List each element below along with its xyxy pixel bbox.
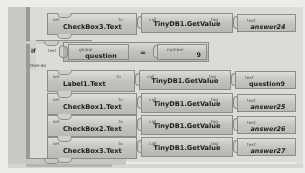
text-literal-value[interactable]: answer25 xyxy=(245,103,291,111)
tag-socket-label: tag xyxy=(211,97,218,102)
number-literal-block[interactable]: number 9 xyxy=(157,44,207,60)
text-literal-block-3[interactable]: text answer25 xyxy=(237,94,296,112)
to-keyword-label: to xyxy=(119,119,123,124)
enclosing-block-foot xyxy=(26,164,112,167)
call-method-block-5[interactable]: call TinyDB1.GetValue tag xyxy=(141,137,233,157)
call-method-block-1[interactable]: call TinyDB1.GetValue tag xyxy=(141,13,233,33)
enclosing-block-spine[interactable] xyxy=(26,7,30,162)
call-method-block-2[interactable]: call TinyDB1.GetValue tag xyxy=(139,70,231,90)
text-literal-value[interactable]: answer27 xyxy=(245,147,291,155)
set-keyword-label: set xyxy=(53,17,60,22)
property-name-label: CheckBox3.Text xyxy=(63,23,122,31)
set-property-block-5[interactable]: set CheckBox3.Text to xyxy=(47,137,137,159)
set-property-block-3[interactable]: set CheckBox1.Text to xyxy=(47,93,137,115)
then-do-socket-label: then-do xyxy=(30,63,46,68)
call-method-block-4[interactable]: call TinyDB1.GetValue tag xyxy=(141,115,233,135)
property-name-label: CheckBox3.Text xyxy=(63,147,122,155)
text-literal-block-2[interactable]: text question9 xyxy=(235,71,296,89)
set-keyword-label: set xyxy=(53,119,60,124)
to-keyword-label: to xyxy=(119,97,123,102)
text-literal-value[interactable]: question9 xyxy=(243,80,291,88)
set-property-block-2[interactable]: set Label1.Text to xyxy=(47,70,135,92)
set-keyword-label: set xyxy=(53,74,60,79)
test-socket-label: test xyxy=(48,48,56,53)
if-keyword-label: if xyxy=(31,47,36,54)
method-name-label: TinyDB1.GetValue xyxy=(142,144,232,152)
equals-operator-label: = xyxy=(140,49,146,57)
property-name-label: CheckBox2.Text xyxy=(63,125,122,133)
method-name-label: TinyDB1.GetValue xyxy=(140,77,230,85)
property-name-label: Label1.Text xyxy=(63,80,106,88)
number-keyword-label: number xyxy=(167,47,184,52)
tag-socket-label: tag xyxy=(211,17,218,22)
to-keyword-label: to xyxy=(117,74,121,79)
blocks-canvas[interactable]: set CheckBox3.Text to call TinyDB1.GetVa… xyxy=(0,0,305,173)
workspace-right-edge xyxy=(296,7,303,166)
text-literal-value[interactable]: answer24 xyxy=(245,23,291,31)
to-keyword-label: to xyxy=(119,17,123,22)
text-literal-block-4[interactable]: text answer26 xyxy=(237,116,296,134)
method-name-label: TinyDB1.GetValue xyxy=(142,20,232,28)
property-name-label: CheckBox1.Text xyxy=(63,103,122,111)
method-name-label: TinyDB1.GetValue xyxy=(142,122,232,130)
global-variable-getter-block[interactable]: global question xyxy=(68,44,129,60)
method-name-label: TinyDB1.GetValue xyxy=(142,100,232,108)
text-literal-block-5[interactable]: text answer27 xyxy=(237,138,296,156)
call-method-block-3[interactable]: call TinyDB1.GetValue tag xyxy=(141,93,233,113)
set-keyword-label: set xyxy=(53,141,60,146)
text-literal-value[interactable]: answer26 xyxy=(245,125,291,133)
tag-socket-label: tag xyxy=(211,141,218,146)
set-keyword-label: set xyxy=(53,97,60,102)
workspace-left-gutter xyxy=(8,7,26,166)
set-property-block-1[interactable]: set CheckBox3.Text to xyxy=(47,13,137,35)
set-property-block-4[interactable]: set CheckBox2.Text to xyxy=(47,115,137,137)
global-variable-name: question xyxy=(77,52,125,60)
number-literal-value[interactable]: 9 xyxy=(197,51,201,59)
tag-socket-label: tag xyxy=(209,74,216,79)
to-keyword-label: to xyxy=(119,141,123,146)
text-literal-block-1[interactable]: text answer24 xyxy=(237,14,296,32)
tag-socket-label: tag xyxy=(211,119,218,124)
